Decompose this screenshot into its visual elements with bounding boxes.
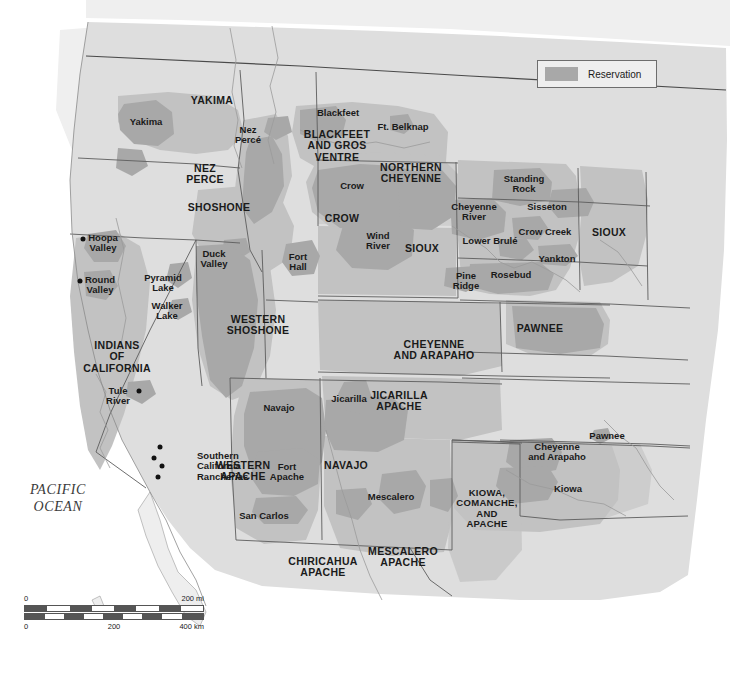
territory-label-sioux: SIOUX <box>405 243 439 254</box>
reservation-label-crow: Crow <box>340 181 364 191</box>
reservation-label-mescalero: Mescalero <box>368 492 414 502</box>
territory-label-nez-perce: NEZ PERCE <box>186 163 224 186</box>
reservation-label-wind-river: Wind River <box>366 231 390 252</box>
reservation-label-tule-river: Tule River <box>106 386 130 407</box>
territory-label-jicarilla-apache: JICARILLA APACHE <box>370 390 428 413</box>
reservation-label-hoopa-valley: Hoopa Valley <box>88 233 118 254</box>
reservation-label-sisseton: Sisseton <box>527 202 567 212</box>
scale-bar: 0 200 mi 0 200 400 km <box>24 594 204 633</box>
legend: Reservation <box>537 60 657 88</box>
territory-label-kiowa-comanche-and-apache: KIOWA, COMANCHE, AND APACHE <box>456 488 517 529</box>
reservation-label-walker-lake: Walker Lake <box>152 301 183 322</box>
scale-km-start: 0 <box>24 622 28 631</box>
reservation-label-rosebud: Rosebud <box>491 270 532 280</box>
reservation-label-duck-valley: Duck Valley <box>201 249 228 270</box>
territory-label-navajo: NAVAJO <box>324 460 368 471</box>
reservation-label-cheyenne-river: Cheyenne River <box>451 202 496 223</box>
reservation-label-pawnee: Pawnee <box>589 431 624 441</box>
reservation-label-blackfeet: Blackfeet <box>317 108 359 118</box>
reservation-label-ft-belknap: Ft. Belknap <box>377 122 428 132</box>
reservation-label-pine-ridge: Pine Ridge <box>453 271 479 292</box>
map-container: Reservation 0 200 mi 0 200 400 km PACIFI… <box>0 0 738 695</box>
reservation-label-yakima: Yakima <box>130 117 163 127</box>
territory-label-northern-cheyenne: NORTHERN CHEYENNE <box>380 162 442 185</box>
scale-mi-start: 0 <box>24 594 28 603</box>
scale-bar-km-ticks: 0 200 400 km <box>24 622 204 633</box>
scale-bar-miles-row <box>24 605 204 612</box>
reservation-label-yankton: Yankton <box>539 254 576 264</box>
legend-swatch-reservation <box>545 67 578 81</box>
rancheria-dot-2 <box>152 456 157 461</box>
reservation-label-san-carlos: San Carlos <box>239 511 289 521</box>
round-valley-dot <box>78 279 83 284</box>
reservation-label-cheyenne-and-arapaho: Cheyenne and Arapaho <box>528 442 586 463</box>
legend-label-reservation: Reservation <box>588 69 641 80</box>
territory-label-pawnee: PAWNEE <box>517 323 564 334</box>
reservation-label-navajo: Navajo <box>263 403 294 413</box>
territory-label-cheyenne-and-arapaho: CHEYENNE AND ARAPAHO <box>394 339 475 362</box>
territory-label-western-shoshone: WESTERN SHOSHONE <box>227 314 290 337</box>
rancheria-dot-4 <box>156 475 161 480</box>
reservation-label-fort-hall: Fort Hall <box>289 252 307 273</box>
territory-label-shoshone: SHOSHONE <box>188 202 251 213</box>
tule-river-dot <box>137 389 142 394</box>
territory-label-chiricahua-apache: CHIRICAHUA APACHE <box>288 556 358 579</box>
reservation-label-kiowa: Kiowa <box>554 484 582 494</box>
territory-label-yakima: YAKIMA <box>191 95 233 106</box>
territory-label-blackfeet-and-gros-ventre: BLACKFEET AND GROS VENTRE <box>304 129 370 163</box>
scale-bar-miles-ticks: 0 200 mi <box>24 594 204 605</box>
reservation-label-standing-rock: Standing Rock <box>504 174 545 195</box>
reservation-label-nez-perc: Nez Percé <box>235 125 261 146</box>
scale-km-mid: 200 <box>108 622 121 631</box>
reservation-label-crow-creek: Crow Creek <box>519 227 572 237</box>
territory-label-indians-of-california: INDIANS OF CALIFORNIA <box>83 340 151 374</box>
ocean-label: PACIFIC OCEAN <box>30 482 86 516</box>
rancheria-dot-3 <box>160 464 165 469</box>
rancheria-dot-1 <box>158 445 163 450</box>
reservation-label-pyramid-lake: Pyramid Lake <box>144 273 182 294</box>
scale-bar-km-row <box>24 613 204 620</box>
reservation-label-fort-apache: Fort Apache <box>270 462 304 483</box>
territory-label-crow: CROW <box>325 213 359 224</box>
hoopa-valley-dot <box>81 237 86 242</box>
territory-label-mescalero-apache: MESCALERO APACHE <box>368 546 438 569</box>
reservation-label-lower-brul: Lower Brulé <box>463 236 518 246</box>
territory-label-sioux: SIOUX <box>592 227 626 238</box>
reservation-label-southern-california-rancherias: Southern California Rancherias <box>197 451 248 482</box>
reservation-label-round-valley: Round Valley <box>85 275 115 296</box>
reservation-label-jicarilla: Jicarilla <box>331 394 366 404</box>
scale-mi-end: 200 mi <box>181 594 204 603</box>
scale-km-end: 400 km <box>179 622 204 631</box>
